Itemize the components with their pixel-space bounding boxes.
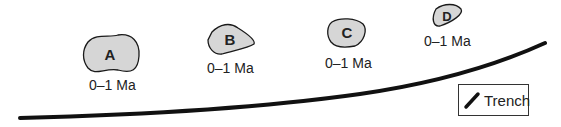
volcano-b-label: B bbox=[225, 31, 236, 48]
trench-line-icon bbox=[461, 85, 485, 115]
legend-label: Trench bbox=[484, 92, 530, 109]
volcano-a-age: 0–1 Ma bbox=[89, 77, 136, 93]
volcano-c-age: 0–1 Ma bbox=[325, 55, 372, 71]
volcano-c-label: C bbox=[342, 24, 353, 41]
legend-box: Trench bbox=[458, 84, 529, 116]
volcano-d-label: D bbox=[442, 9, 451, 24]
volcano-b-age: 0–1 Ma bbox=[207, 60, 254, 76]
volcano-d-age: 0–1 Ma bbox=[424, 33, 471, 49]
volcano-a-label: A bbox=[105, 46, 116, 63]
